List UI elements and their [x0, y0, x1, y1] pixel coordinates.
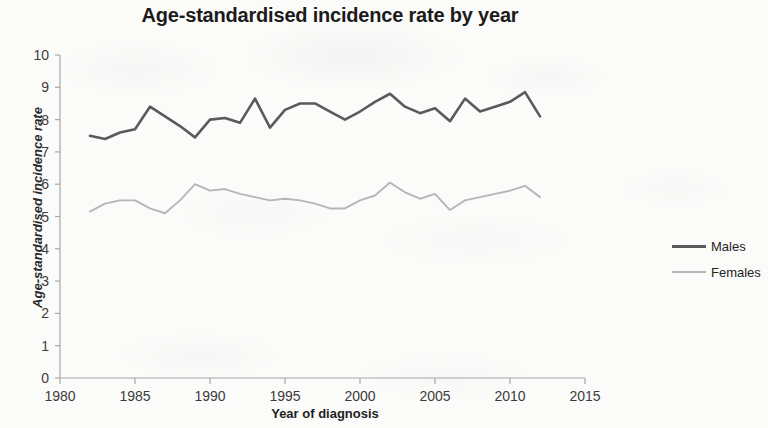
legend-label-males: Males	[711, 239, 746, 254]
legend-swatch-females-icon	[672, 271, 706, 273]
series-line-females	[90, 183, 540, 214]
data-series-group	[90, 92, 540, 213]
y-axis-tick-label: 0	[41, 370, 49, 386]
legend-item-females: Females	[672, 259, 761, 285]
y-axis-tick-label: 10	[33, 47, 49, 63]
x-axis-title: Year of diagnosis	[60, 406, 590, 421]
chart-title: Age-standardised incidence rate by year	[0, 4, 660, 27]
x-axis: 19801985199019952000200520102015	[44, 378, 600, 404]
y-axis-title: Age-standardised incidence rate	[30, 83, 45, 333]
legend-label-females: Females	[711, 265, 761, 280]
x-axis-tick-label: 2010	[494, 388, 525, 404]
x-axis-tick-label: 2005	[419, 388, 450, 404]
series-line-males	[90, 92, 540, 139]
legend-swatch-males-icon	[672, 245, 706, 248]
y-axis-tick-label: 1	[41, 338, 49, 354]
x-axis-tick-label: 1980	[44, 388, 75, 404]
x-axis-tick-label: 1985	[119, 388, 150, 404]
chart-legend: Males Females	[672, 233, 761, 285]
legend-item-males: Males	[672, 233, 761, 259]
chart-page: Age-standardised incidence rate by year …	[0, 0, 768, 428]
x-axis-tick-label: 1995	[269, 388, 300, 404]
x-axis-tick-label: 1990	[194, 388, 225, 404]
x-axis-tick-label: 2000	[344, 388, 375, 404]
x-axis-tick-label: 2015	[569, 388, 600, 404]
line-chart-plot: 012345678910 198019851990199520002005201…	[0, 0, 768, 428]
